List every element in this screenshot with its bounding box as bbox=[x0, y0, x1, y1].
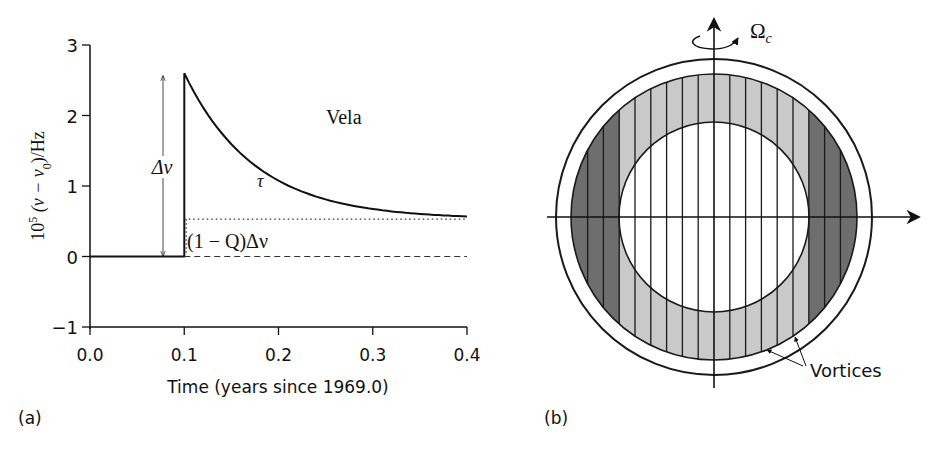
omega-label: Ωc bbox=[750, 19, 773, 46]
y-tick-label: 1 bbox=[67, 176, 78, 197]
tau-label: τ bbox=[257, 171, 264, 191]
panel-a-chart: 0.00.10.20.30.4−10123 Δν Vela τ (1 − Q)Δ… bbox=[18, 35, 481, 428]
vortices-label: Vortices bbox=[810, 360, 882, 381]
y-axis-title: 105 (ν − ν0)/Hz bbox=[26, 131, 54, 241]
x-tick-label: 0.0 bbox=[76, 345, 103, 365]
rotation-arrow-icon bbox=[693, 36, 738, 49]
figure: 0.00.10.20.30.4−10123 Δν Vela τ (1 − Q)Δ… bbox=[0, 0, 943, 449]
chart-axes bbox=[90, 45, 467, 329]
x-tick-label: 0.3 bbox=[359, 345, 386, 365]
x-tick-label: 0.1 bbox=[171, 345, 198, 365]
delta-nu-label: Δν bbox=[151, 156, 173, 178]
x-axis-title: Time (years since 1969.0) bbox=[166, 377, 389, 397]
x-tick-label: 0.2 bbox=[265, 345, 292, 365]
figure-canvas: 0.00.10.20.30.4−10123 Δν Vela τ (1 − Q)Δ… bbox=[0, 0, 943, 449]
panel-a-label: (a) bbox=[18, 408, 42, 428]
y-tick-label: −1 bbox=[51, 317, 78, 338]
axis-ticks: 0.00.10.20.30.4−10123 bbox=[51, 35, 480, 365]
vela-label: Vela bbox=[326, 106, 362, 128]
chart-series bbox=[90, 73, 467, 256]
x-tick-label: 0.4 bbox=[453, 345, 480, 365]
panel-b-label: (b) bbox=[544, 408, 568, 428]
recovery-label: (1 − Q)Δν bbox=[187, 230, 268, 253]
y-tick-label: 2 bbox=[67, 106, 78, 127]
glitch-curve bbox=[90, 73, 467, 256]
y-tick-label: 3 bbox=[67, 35, 78, 56]
y-tick-label: 0 bbox=[67, 247, 78, 268]
panel-b-diagram: Ωc Vortices (b) bbox=[544, 19, 918, 428]
